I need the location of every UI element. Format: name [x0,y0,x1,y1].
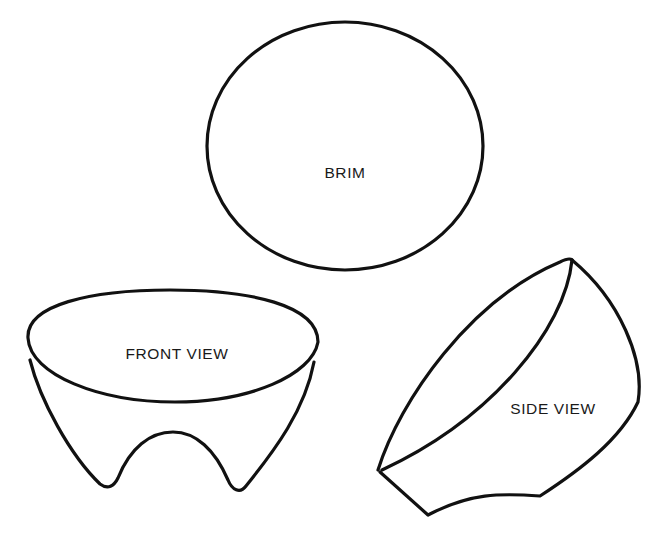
side-view-shape: SIDE VIEW [378,259,639,515]
front-view-label: FRONT VIEW [125,345,228,362]
hat-pattern-diagram: BRIM FRONT VIEW SIDE VIEW [0,0,666,537]
side-view-rim-outer [378,259,572,470]
front-view-body [30,360,314,490]
brim-label: BRIM [324,164,365,181]
brim-shape: BRIM [207,22,483,270]
brim-outline [207,22,483,270]
side-view-label: SIDE VIEW [510,400,596,417]
front-view-shape: FRONT VIEW [28,290,318,490]
side-view-rim-inner [382,260,572,470]
